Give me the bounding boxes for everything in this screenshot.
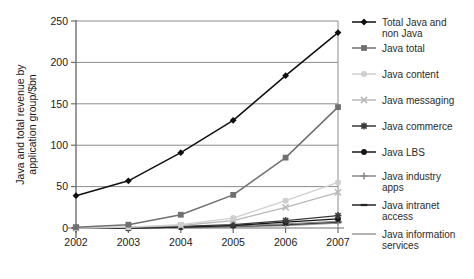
y-tick-label: 100 [50, 139, 68, 151]
y-axis-title-line-1: Java and total revenue by [14, 64, 26, 185]
x-tick-label: 2007 [326, 236, 350, 248]
legend-label-line-2: services [382, 240, 419, 251]
data-point-dot [361, 149, 367, 155]
data-point-circle [361, 71, 367, 77]
data-point-square [230, 192, 236, 198]
data-point-star [335, 212, 342, 219]
data-point-square [126, 222, 132, 228]
line-chart: 050100150200250 200220032004200520062007… [0, 0, 474, 279]
legend-label-line-2: apps [382, 182, 404, 193]
y-tick-label: 50 [56, 180, 68, 192]
legend-label-line-2: non Java [382, 28, 423, 39]
data-point-star [361, 122, 368, 129]
data-point-square [73, 224, 79, 230]
legend-label-line-1: Java messaging [382, 95, 454, 106]
legend-label-line-1: Java industry [382, 171, 441, 182]
data-point-circle [230, 215, 236, 221]
y-axis-title-line-2: application group/$bn [26, 74, 38, 175]
y-tick-label: 0 [62, 222, 68, 234]
x-tick-label: 2005 [222, 236, 246, 248]
legend-label-line-1: Java total [382, 43, 425, 54]
data-point-dash [361, 204, 368, 206]
data-point-circle [335, 179, 341, 185]
x-tick-label: 2006 [274, 236, 298, 248]
legend-label-line-1: Total Java and [382, 17, 447, 28]
legend-label-line-1: Java content [382, 69, 439, 80]
data-point-square [283, 155, 289, 161]
legend-label-line-1: Java intranet [382, 200, 439, 211]
data-point-square [361, 45, 367, 51]
y-tick-label: 150 [50, 98, 68, 110]
legend-label-line-1: Java information [382, 229, 455, 240]
data-point-square [335, 104, 341, 110]
legend-label-line-1: Java LBS [382, 147, 425, 158]
x-tick-label: 2004 [169, 236, 193, 248]
legend-label-line-1: Java commerce [382, 121, 453, 132]
data-point-circle [283, 198, 289, 204]
data-point-star [282, 217, 289, 224]
chart-screenshot: 050100150200250 200220032004200520062007… [0, 0, 474, 279]
y-tick-label: 200 [50, 56, 68, 68]
data-point-circle [178, 222, 184, 228]
x-tick-label: 2003 [117, 236, 141, 248]
data-point-square [178, 212, 184, 218]
y-tick-label: 250 [50, 15, 68, 27]
legend-label-line-2: access [382, 211, 413, 222]
